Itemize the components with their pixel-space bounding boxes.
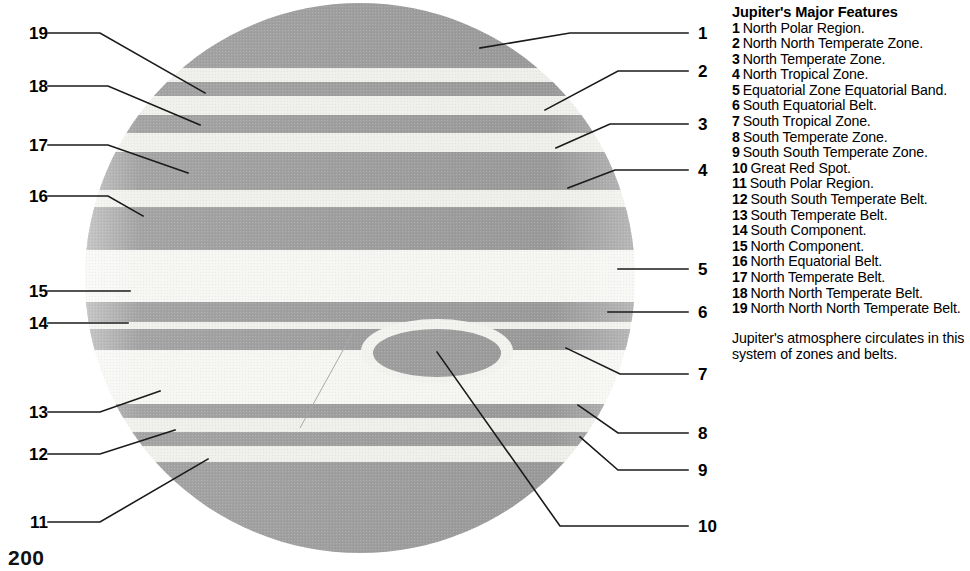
callout-number-14[interactable]: 14 [8, 315, 48, 332]
legend-item-label: North Tropical Zone. [743, 66, 869, 82]
legend-item-label: South Tropical Zone. [743, 113, 871, 129]
legend-item-index: 5 [732, 82, 740, 98]
callout-number-6[interactable]: 6 [698, 304, 707, 321]
jupiter-features-figure: 191817161514131211 12345678910 200 Jupit… [0, 0, 970, 571]
legend-item-label: North North North Temperate Belt. [750, 300, 960, 316]
legend-item-index: 18 [732, 285, 747, 301]
legend-item-9[interactable]: 9South South Temperate Zone. [732, 145, 968, 161]
legend-item-index: 4 [732, 66, 740, 82]
legend-item-label: Great Red Spot. [750, 160, 850, 176]
legend-item-label: North Temperate Belt. [750, 269, 885, 285]
legend-item-4[interactable]: 4North Tropical Zone. [732, 67, 968, 83]
legend-note: Jupiter's atmosphere circulates in this … [732, 331, 968, 363]
callout-number-5[interactable]: 5 [698, 261, 707, 278]
legend-item-label: North Temperate Zone. [743, 51, 885, 67]
legend-item-11[interactable]: 11South Polar Region. [732, 176, 968, 192]
legend-item-label: Equatorial Zone Equatorial Band. [743, 82, 947, 98]
callout-number-9[interactable]: 9 [698, 462, 707, 479]
page-number: 200 [8, 546, 45, 570]
legend-item-label: South South Temperate Zone. [743, 144, 928, 160]
legend-item-label: North Polar Region. [743, 20, 865, 36]
leader-line-1 [480, 33, 688, 48]
legend-item-index: 14 [732, 222, 747, 238]
legend-item-14[interactable]: 14South Component. [732, 223, 968, 239]
planet-svg [0, 0, 720, 571]
callout-number-19[interactable]: 19 [8, 25, 48, 42]
legend-item-7[interactable]: 7South Tropical Zone. [732, 114, 968, 130]
callout-number-3[interactable]: 3 [698, 116, 707, 133]
legend-item-index: 17 [732, 269, 747, 285]
callout-number-8[interactable]: 8 [698, 425, 707, 442]
legend-item-label: South Temperate Zone. [743, 129, 888, 145]
legend-item-index: 8 [732, 129, 740, 145]
legend-item-label: South Polar Region. [750, 175, 874, 191]
legend-item-index: 10 [732, 160, 747, 176]
callout-number-4[interactable]: 4 [698, 162, 707, 179]
legend-item-8[interactable]: 8South Temperate Zone. [732, 130, 968, 146]
legend-item-index: 15 [732, 238, 747, 254]
callout-number-18[interactable]: 18 [8, 78, 48, 95]
legend-item-index: 11 [732, 175, 747, 191]
legend-item-3[interactable]: 3North Temperate Zone. [732, 52, 968, 68]
legend-item-index: 6 [732, 97, 740, 113]
callout-number-13[interactable]: 13 [8, 404, 48, 421]
legend-item-label: North North Temperate Zone. [743, 35, 923, 51]
callout-number-1[interactable]: 1 [698, 25, 707, 42]
legend-item-1[interactable]: 1North Polar Region. [732, 21, 968, 37]
legend-item-15[interactable]: 15North Component. [732, 239, 968, 255]
legend-item-index: 7 [732, 113, 740, 129]
legend-item-index: 3 [732, 51, 740, 67]
callout-number-17[interactable]: 17 [8, 137, 48, 154]
legend-item-index: 19 [732, 300, 747, 316]
callout-number-2[interactable]: 2 [698, 63, 707, 80]
legend-item-16[interactable]: 16North Equatorial Belt. [732, 254, 968, 270]
legend-item-13[interactable]: 13South Temperate Belt. [732, 208, 968, 224]
legend-item-label: South Temperate Belt. [750, 207, 887, 223]
legend-item-index: 12 [732, 191, 747, 207]
legend-item-label: South Component. [750, 222, 866, 238]
leader-line-9 [580, 437, 688, 470]
callout-number-7[interactable]: 7 [698, 366, 707, 383]
legend-item-label: North North Temperate Belt. [750, 285, 922, 301]
callout-number-11[interactable]: 11 [8, 514, 48, 531]
legend-item-label: South South Temperate Belt. [750, 191, 927, 207]
legend-item-12[interactable]: 12South South Temperate Belt. [732, 192, 968, 208]
legend-item-17[interactable]: 17North Temperate Belt. [732, 270, 968, 286]
legend-panel: Jupiter's Major Features 1North Polar Re… [732, 4, 968, 362]
planet-diagram: 191817161514131211 12345678910 [0, 0, 720, 571]
legend-item-label: North Equatorial Belt. [750, 253, 882, 269]
legend-item-19[interactable]: 19North North North Temperate Belt. [732, 301, 968, 317]
legend-item-index: 2 [732, 35, 740, 51]
legend-title: Jupiter's Major Features [732, 4, 968, 21]
legend-item-2[interactable]: 2North North Temperate Zone. [732, 36, 968, 52]
legend-item-18[interactable]: 18North North Temperate Belt. [732, 286, 968, 302]
legend-item-index: 16 [732, 253, 747, 269]
legend-item-6[interactable]: 6South Equatorial Belt. [732, 98, 968, 114]
callout-number-15[interactable]: 15 [8, 283, 48, 300]
halftone-texture [85, 3, 635, 553]
callout-number-12[interactable]: 12 [8, 446, 48, 463]
legend-list: 1North Polar Region.2North North Tempera… [732, 21, 968, 317]
legend-item-label: North Component. [750, 238, 864, 254]
legend-item-index: 13 [732, 207, 747, 223]
legend-item-10[interactable]: 10Great Red Spot. [732, 161, 968, 177]
callout-number-16[interactable]: 16 [8, 188, 48, 205]
callout-number-10[interactable]: 10 [698, 518, 717, 535]
legend-item-index: 9 [732, 144, 740, 160]
legend-item-label: South Equatorial Belt. [743, 97, 877, 113]
legend-item-5[interactable]: 5Equatorial Zone Equatorial Band. [732, 83, 968, 99]
legend-item-index: 1 [732, 20, 740, 36]
